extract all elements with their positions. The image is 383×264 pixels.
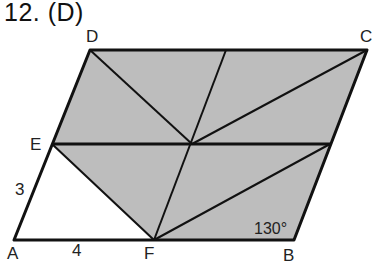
- length-label-AF: 4: [72, 241, 81, 261]
- vertex-label-C: C: [360, 27, 372, 47]
- vertex-label-E: E: [30, 135, 41, 155]
- parallelogram-diagram: [0, 0, 383, 264]
- angle-label-B: 130°: [254, 220, 287, 238]
- vertex-label-F: F: [144, 244, 154, 264]
- vertex-label-A: A: [7, 244, 18, 264]
- length-label-AE: 3: [15, 180, 24, 200]
- vertex-label-B: B: [283, 246, 294, 264]
- vertex-label-D: D: [86, 27, 98, 47]
